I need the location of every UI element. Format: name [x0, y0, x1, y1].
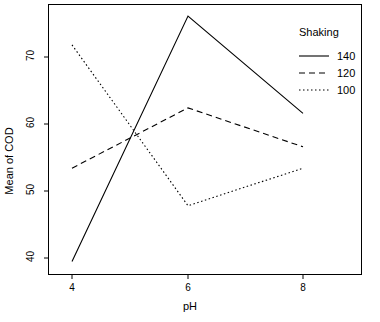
data-series-group — [72, 16, 303, 261]
y-axis-title: Mean of COD — [0, 0, 18, 322]
x-tick-label-4: 4 — [62, 282, 82, 293]
series-line-100 — [72, 45, 303, 206]
x-tick-label-6: 6 — [178, 282, 198, 293]
x-axis-ticks — [72, 275, 303, 280]
y-tick-label-60: 60 — [25, 113, 36, 133]
legend-label-140: 140 — [337, 50, 355, 62]
y-axis-ticks — [44, 57, 49, 258]
legend-title: Shaking — [299, 26, 339, 38]
interaction-plot-figure: Mean of COD pH 70 60 50 40 4 6 8 Shaking… — [0, 0, 380, 322]
series-line-140 — [72, 16, 303, 261]
series-line-120 — [72, 108, 303, 168]
y-tick-label-50: 50 — [25, 180, 36, 200]
y-tick-label-40: 40 — [25, 247, 36, 267]
x-tick-label-8: 8 — [293, 282, 313, 293]
x-axis-title: pH — [0, 300, 380, 312]
legend-label-120: 120 — [337, 67, 355, 79]
y-tick-label-70: 70 — [25, 46, 36, 66]
legend-label-100: 100 — [337, 84, 355, 96]
legend-key-lines — [299, 56, 329, 90]
plot-frame — [49, 5, 362, 275]
plot-canvas — [0, 0, 380, 322]
